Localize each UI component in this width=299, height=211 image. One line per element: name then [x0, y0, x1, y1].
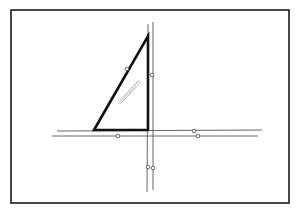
frame-rect — [11, 10, 289, 203]
marker-circle-1 — [125, 67, 129, 71]
diagram-canvas — [0, 0, 299, 211]
marker-circle-6 — [146, 165, 150, 169]
marker-circle-4 — [192, 129, 196, 133]
frame-border — [11, 10, 289, 203]
marker-circle-2 — [150, 73, 154, 77]
marker-circle-5 — [196, 134, 200, 138]
horizontal-rails — [52, 130, 262, 136]
marker-circle-7 — [151, 166, 155, 170]
marker-circle-3 — [116, 134, 120, 138]
pivot-markers — [116, 67, 200, 170]
hatch-line-4 — [122, 87, 136, 102]
technical-drawing — [0, 0, 299, 211]
horizontal-rail-1 — [57, 130, 262, 131]
